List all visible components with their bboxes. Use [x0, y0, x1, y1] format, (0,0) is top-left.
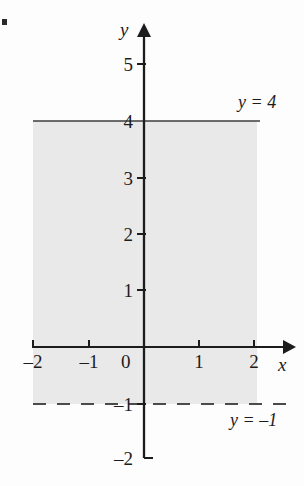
y-tick-label-minus-1: –1 [105, 395, 133, 414]
annotation-y-equals-4: y = 4 [238, 93, 276, 111]
y-tick-label-1: 1 [111, 281, 133, 300]
y-tick-label-5: 5 [111, 55, 133, 74]
x-tick-label-1: 1 [187, 352, 211, 371]
x-tick-label-minus-1: –1 [74, 352, 104, 371]
x-axis-arrowhead [283, 340, 296, 354]
y-tick-label-2: 2 [111, 225, 133, 244]
x-tick-label-2: 2 [242, 352, 266, 371]
x-tick-label-minus-2: –2 [18, 352, 48, 371]
y-axis-label: y [120, 20, 128, 39]
annotation-y-equals-minus-1: y = –1 [230, 411, 277, 429]
origin-tick-label: 0 [121, 352, 131, 371]
graph-figure: y x 0 5 4 3 2 1 –1 –2 –2 –1 1 2 y = 4 y … [0, 0, 304, 486]
y-tick-label-3: 3 [111, 169, 133, 188]
x-axis-label: x [278, 355, 286, 374]
y-axis-arrowhead [137, 23, 151, 37]
y-tick-label-minus-2: –2 [105, 449, 133, 468]
y-tick-label-4: 4 [111, 112, 133, 131]
